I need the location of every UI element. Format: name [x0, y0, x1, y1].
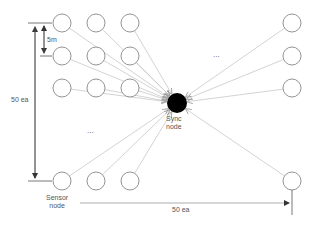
sensor-node [121, 172, 139, 190]
link-arrow [102, 111, 169, 175]
sensor-node [87, 172, 105, 190]
ellipsis-left: ... [87, 126, 94, 135]
sensor-node [283, 172, 301, 190]
sensor-node [53, 14, 71, 32]
sensor-node [87, 14, 105, 32]
sensor-node [121, 47, 139, 65]
sync-node-label: Sync node [166, 115, 182, 131]
sensor-node [87, 47, 105, 65]
ellipsis-right: ... [213, 50, 220, 59]
link-arrow [135, 31, 172, 94]
sensor-node [283, 47, 301, 65]
sync-node [167, 93, 187, 113]
sync-node-label-line1: Sync [166, 115, 182, 123]
link-arrow [136, 62, 169, 95]
link-arrow [186, 28, 285, 97]
sensor-node-label-line1: Sensor [46, 194, 68, 202]
sensor-node [53, 79, 71, 97]
spacing-label: 5m [47, 36, 57, 44]
sensor-node [121, 14, 139, 32]
sensor-node [53, 172, 71, 190]
horizontal-count-label: 50 ea [172, 206, 190, 214]
network-diagram [0, 0, 313, 225]
sync-node-label-line2: node [166, 123, 182, 131]
sensor-node [283, 79, 301, 97]
sensor-node [121, 79, 139, 97]
sensor-node [53, 47, 71, 65]
sensor-node [283, 14, 301, 32]
vertical-count-label: 50 ea [11, 96, 29, 104]
sensor-node-label: Sensor node [46, 194, 68, 210]
sensor-node-label-line2: node [46, 202, 68, 210]
link-arrow [186, 109, 284, 176]
link-arrow [188, 89, 283, 101]
sensor-node [87, 79, 105, 97]
link-arrow [187, 59, 283, 98]
